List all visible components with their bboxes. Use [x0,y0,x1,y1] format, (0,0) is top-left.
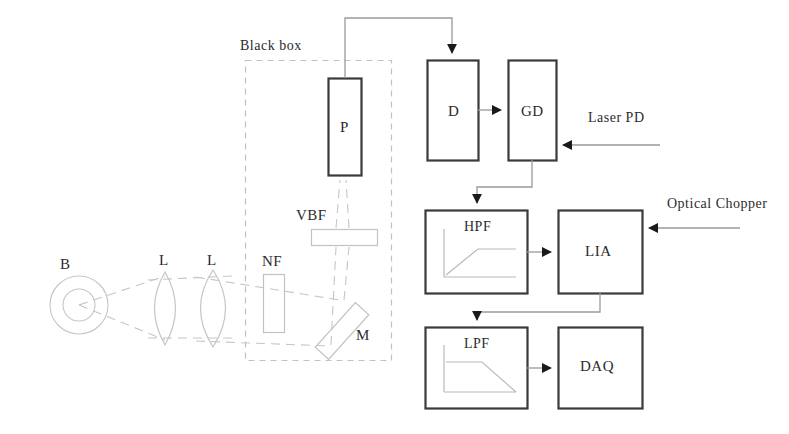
block-daq-label: DAQ [580,358,614,375]
lens-1-label: L [159,252,169,269]
block-lpf-label: LPF [464,336,490,352]
block-gd-label: GD [521,103,544,120]
source-label-b: B [60,256,71,273]
neutral-filter-label: NF [262,253,282,270]
diagram-canvas: Black box B L L NF VBF M P D GD HPF LIA … [0,0,789,434]
wire-lia-to-lpf [477,293,600,320]
lens-2-icon [201,270,226,347]
ray-bundle-lens1-lens2 [148,276,232,338]
optical-chopper-label: Optical Chopper [667,196,767,212]
ray-bundle-lens2-mirror [196,277,340,346]
lens-2-label: L [207,252,217,269]
neutral-filter-icon [264,275,285,333]
variable-band-filter-label: VBF [296,207,327,224]
black-box-label: Black box [240,38,302,54]
block-lia-label: LIA [585,243,612,260]
laser-pd-label: Laser PD [588,110,645,126]
diagram-vector-layer [0,0,789,434]
block-hpf-label: HPF [464,219,491,235]
wire-gd-to-hpf [477,160,532,203]
variable-band-filter-icon [312,230,378,246]
block-d-label: D [448,103,459,120]
lens-1-icon [155,272,176,345]
mirror-label: M [356,327,370,344]
detector-p-label: P [340,119,349,136]
